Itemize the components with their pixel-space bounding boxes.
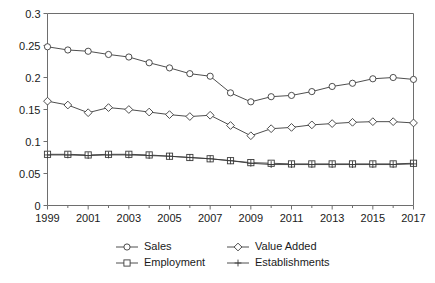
marker-circle bbox=[410, 76, 416, 82]
marker-circle bbox=[207, 73, 213, 79]
legend-item-value-added[interactable]: Value Added bbox=[227, 240, 317, 252]
x-tick-label: 2009 bbox=[239, 212, 263, 224]
y-tick-label: 0.15 bbox=[19, 104, 40, 116]
legend-label: Employment bbox=[144, 256, 205, 268]
marker-diamond bbox=[389, 118, 397, 126]
marker-diamond bbox=[145, 108, 153, 116]
x-axis-ticks: 1999200120032005200720092011201320152017 bbox=[35, 206, 425, 224]
marker-diamond bbox=[308, 121, 316, 129]
marker-diamond bbox=[84, 109, 92, 117]
legend-label: Value Added bbox=[255, 240, 317, 252]
marker-diamond bbox=[369, 118, 377, 126]
x-tick-label: 2011 bbox=[280, 212, 304, 224]
marker-diamond bbox=[44, 97, 52, 105]
marker-circle bbox=[65, 47, 71, 53]
chart-legend: SalesValue AddedEmploymentEstablishments bbox=[116, 240, 330, 268]
marker-circle bbox=[329, 83, 335, 89]
marker-circle bbox=[349, 80, 355, 86]
marker-circle bbox=[44, 44, 50, 50]
marker-circle bbox=[390, 74, 396, 80]
y-tick-label: 0.2 bbox=[25, 72, 40, 84]
marker-circle bbox=[146, 60, 152, 66]
marker-diamond bbox=[166, 111, 174, 119]
marker-diamond bbox=[288, 124, 296, 132]
marker-diamond bbox=[125, 106, 133, 114]
x-tick-label: 2007 bbox=[198, 212, 222, 224]
x-tick-label: 2005 bbox=[157, 212, 181, 224]
x-tick-label: 2015 bbox=[361, 212, 385, 224]
legend-item-sales[interactable]: Sales bbox=[116, 240, 172, 252]
series-value-added bbox=[44, 97, 418, 139]
marker-circle bbox=[227, 90, 233, 96]
marker-circle bbox=[166, 65, 172, 71]
series-sales bbox=[44, 44, 416, 105]
legend-item-establishments[interactable]: Establishments bbox=[227, 256, 330, 268]
series-path bbox=[48, 101, 414, 136]
marker-circle bbox=[248, 99, 254, 105]
marker-circle bbox=[268, 94, 274, 100]
y-tick-label: 0.1 bbox=[25, 136, 40, 148]
marker-diamond bbox=[410, 119, 418, 127]
legend-label: Establishments bbox=[255, 256, 330, 268]
x-tick-label: 2003 bbox=[117, 212, 141, 224]
legend-item-employment[interactable]: Employment bbox=[116, 256, 205, 268]
marker-circle bbox=[85, 48, 91, 54]
series-layer bbox=[44, 44, 418, 168]
x-tick-label: 2017 bbox=[401, 212, 425, 224]
marker-circle bbox=[126, 54, 132, 60]
marker-plus bbox=[235, 260, 242, 267]
x-tick-label: 1999 bbox=[35, 212, 59, 224]
marker-circle bbox=[187, 71, 193, 77]
marker-diamond bbox=[349, 118, 357, 126]
marker-diamond bbox=[206, 111, 214, 119]
marker-diamond bbox=[64, 101, 72, 109]
marker-circle bbox=[309, 88, 315, 94]
marker-circle bbox=[105, 51, 111, 57]
marker-diamond bbox=[186, 113, 194, 121]
y-tick-label: 0.25 bbox=[19, 40, 40, 52]
series-establishments bbox=[44, 152, 417, 168]
x-tick-label: 2001 bbox=[76, 212, 100, 224]
legend-label: Sales bbox=[144, 240, 172, 252]
chart-container: 00.050.10.150.20.250.3 19992001200320052… bbox=[0, 0, 435, 283]
marker-circle bbox=[288, 92, 294, 98]
marker-diamond bbox=[227, 122, 235, 130]
line-chart: 00.050.10.150.20.250.3 19992001200320052… bbox=[0, 0, 435, 283]
x-tick-label: 2013 bbox=[320, 212, 344, 224]
y-axis-ticks: 00.050.10.150.20.250.3 bbox=[19, 8, 47, 212]
marker-circle bbox=[370, 76, 376, 82]
y-tick-label: 0.05 bbox=[19, 168, 40, 180]
y-tick-label: 0.3 bbox=[25, 8, 40, 20]
marker-diamond bbox=[267, 125, 275, 133]
marker-circle bbox=[124, 244, 130, 250]
marker-diamond bbox=[247, 132, 255, 140]
marker-diamond bbox=[328, 120, 336, 128]
marker-square bbox=[124, 260, 130, 266]
marker-diamond bbox=[105, 104, 113, 112]
marker-diamond bbox=[234, 243, 242, 251]
y-tick-label: 0 bbox=[34, 200, 40, 212]
